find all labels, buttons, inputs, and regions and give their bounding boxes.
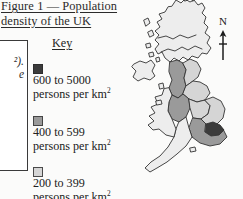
map-region-northern-ireland bbox=[132, 60, 155, 81]
figure-population-density-uk: Figure 1 — Population density of the UK … bbox=[0, 0, 243, 199]
map-island-isle-of-wight bbox=[190, 147, 196, 152]
map-island-skye bbox=[148, 30, 154, 37]
north-arrow-icon bbox=[216, 29, 230, 61]
compass-rose: N bbox=[211, 16, 235, 64]
legend-unit-600-5000: persons per km bbox=[33, 87, 107, 101]
clipped-text-fragment-2: e bbox=[19, 68, 24, 80]
legend-exponent-400-599: 2 bbox=[107, 138, 111, 147]
map-island-islay bbox=[149, 52, 154, 57]
legend-exponent-600-5000: 2 bbox=[107, 86, 111, 95]
compass-north-label: N bbox=[211, 16, 235, 27]
legend-swatch-400-599 bbox=[33, 116, 43, 126]
map-island-anglesey bbox=[156, 100, 162, 105]
legend-exponent-200-399: 2 bbox=[107, 189, 111, 198]
map-region-northern-scotland bbox=[155, 0, 211, 62]
map-island-lewis bbox=[144, 18, 150, 26]
clipped-text-fragment-1: ²). bbox=[14, 55, 24, 67]
clipped-text-box: ²). e bbox=[0, 40, 28, 171]
map-island-arran bbox=[156, 57, 160, 62]
legend-swatch-200-399 bbox=[33, 167, 43, 177]
map-island-mull bbox=[146, 43, 151, 48]
legend-unit-400-599: persons per km bbox=[33, 139, 107, 153]
legend-swatch-600-5000 bbox=[33, 64, 43, 74]
map-island-isle-of-man bbox=[159, 83, 164, 89]
legend-unit-200-399: persons per km bbox=[33, 190, 107, 199]
